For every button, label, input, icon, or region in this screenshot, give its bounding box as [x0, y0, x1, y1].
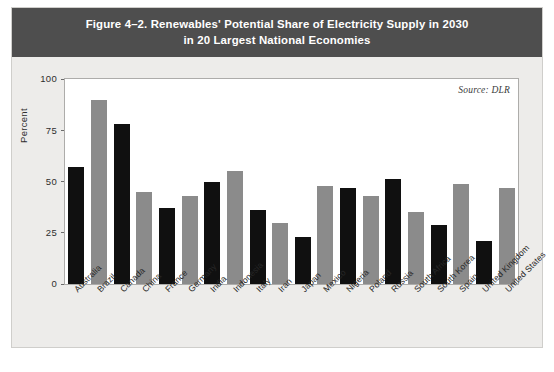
bar: [317, 186, 333, 284]
bar-series: [65, 79, 518, 284]
y-axis-tick-label: 50: [46, 176, 61, 186]
bar: [114, 124, 130, 284]
bar: [272, 223, 288, 285]
y-axis-tick-label: 0: [51, 279, 61, 289]
figure-title-line-1: Figure 4–2. Renewables' Potential Share …: [86, 17, 469, 33]
x-axis-labels: AustraliaBrazilCanadaChinaFranceGermanyI…: [65, 285, 518, 349]
y-axis-tick-label: 25: [46, 228, 61, 238]
bar: [227, 171, 243, 284]
figure-container: Figure 4–2. Renewables' Potential Share …: [11, 7, 543, 348]
bar: [91, 100, 107, 285]
y-axis-tick-label: 75: [46, 125, 61, 135]
y-axis-ticks: 0255075100: [12, 8, 65, 349]
bar: [159, 208, 175, 284]
figure-title-bar: Figure 4–2. Renewables' Potential Share …: [12, 8, 542, 57]
y-axis-tick-label: 100: [40, 74, 61, 84]
figure-title-line-2: in 20 Largest National Economies: [183, 33, 370, 49]
bar: [68, 167, 84, 284]
